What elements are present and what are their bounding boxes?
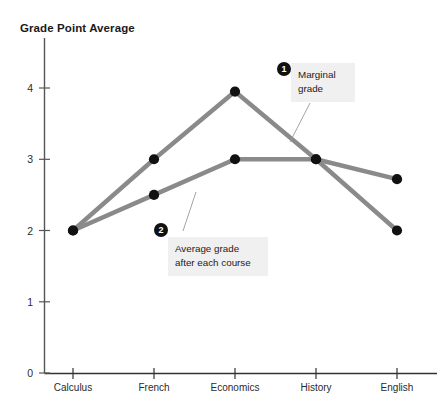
data-point — [149, 190, 159, 200]
data-point — [392, 225, 402, 235]
y-tick-label-3: 3 — [27, 153, 33, 165]
y-tick-label-2: 2 — [27, 225, 33, 237]
callout-badge-1: 1 — [277, 62, 291, 76]
data-point — [311, 154, 321, 164]
data-point — [230, 154, 240, 164]
x-tick-label-economics: Economics — [211, 382, 260, 393]
x-tick-label-english: English — [381, 382, 414, 393]
y-tick-label-1: 1 — [27, 296, 33, 308]
callout-marginal-grade: Marginal grade — [291, 63, 355, 102]
callout-badge-2: 2 — [154, 223, 168, 237]
series-line-average-grade — [73, 159, 397, 230]
chart-container: Grade Point Average 0 1 2 3 4 Calculus F… — [0, 0, 448, 414]
y-tick-label-4: 4 — [27, 82, 33, 94]
callout-average-grade: Average grade after each course — [168, 237, 268, 276]
data-point — [392, 174, 402, 184]
x-tick-label-history: History — [300, 382, 331, 393]
data-point — [230, 86, 240, 96]
x-tick-label-french: French — [138, 382, 169, 393]
y-tick-label-0: 0 — [27, 367, 33, 379]
data-point — [68, 225, 78, 235]
data-point — [149, 154, 159, 164]
chart-plot-area: 0 1 2 3 4 Calculus French Economics Hist… — [0, 0, 448, 414]
callout-leader-line-2 — [183, 192, 196, 231]
callout-leader-line-1 — [290, 103, 310, 142]
x-tick-label-calculus: Calculus — [54, 382, 92, 393]
